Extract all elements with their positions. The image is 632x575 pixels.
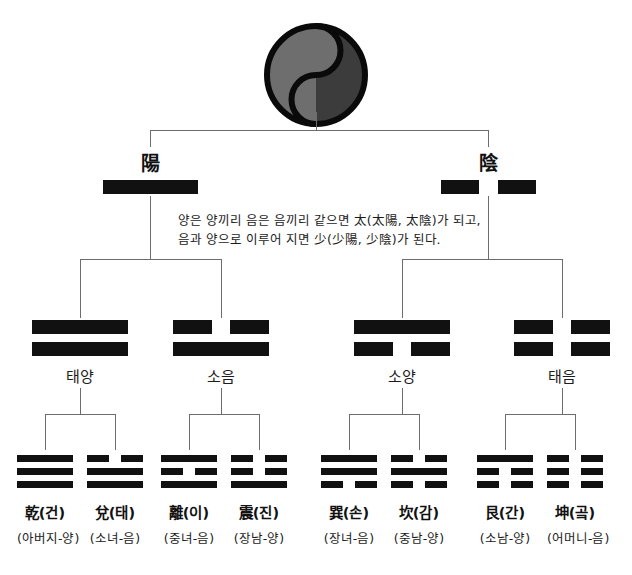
connector-taeyang-stem	[80, 388, 81, 414]
monogram-yin: 陰	[441, 148, 536, 194]
trigram-gan-name: 艮(간)	[477, 501, 533, 522]
trigram-son-lines	[321, 455, 377, 488]
trigram-tae-lines	[87, 455, 143, 488]
explanation-line-1: 양은 양끼리 음은 음끼리 같으면 太(太陽, 太陰)가 되고,	[178, 211, 481, 230]
trigram-jin: 震(진) (장남-양)	[231, 455, 287, 547]
yao-broken	[391, 455, 447, 462]
connector-i-drop	[189, 414, 190, 450]
monogram-yin-lines	[441, 180, 536, 194]
bigram-taeeum-label: 태음	[514, 365, 610, 386]
trigram-son: 巽(손) (장녀-음)	[321, 455, 377, 547]
yao-solid	[17, 468, 73, 475]
trigram-gam-lines	[391, 455, 447, 488]
monogram-yin-label: 陰	[441, 148, 536, 175]
connector-soeum-drop	[221, 259, 222, 318]
explanation-note: 양은 양끼리 음은 음끼리 같으면 太(太陽, 太陰)가 되고, 음과 양으로 …	[178, 211, 481, 249]
bigram-soyang: 소양	[354, 320, 450, 386]
connector-taeyang-drop	[80, 259, 81, 318]
monogram-yang-lines	[103, 180, 198, 194]
trigram-gon: 坤(곸) (어머니-음)	[547, 455, 603, 547]
trigram-gam: 坎(감) (중남-양)	[391, 455, 447, 547]
bigram-taeyang-label: 태양	[32, 365, 128, 386]
bigram-taeeum: 태음	[514, 320, 610, 386]
trigram-geon-sub: (아버지-양)	[17, 528, 73, 547]
yao-broken	[477, 468, 533, 475]
connector-level1-left-drop	[150, 130, 151, 147]
connector-gam-drop	[419, 414, 420, 450]
yao-broken	[231, 468, 287, 475]
bigram-taeyang: 태양	[32, 320, 128, 386]
connector-tae-drop	[115, 414, 116, 450]
yao-solid	[32, 320, 128, 334]
trigram-i-name: 離(이)	[161, 501, 217, 522]
trigram-jin-name: 震(진)	[231, 501, 287, 522]
bigram-taeeum-lines	[514, 320, 610, 356]
trigram-gam-name: 坎(감)	[391, 501, 447, 522]
trigram-geon: 乾(건) (아버지-양)	[17, 455, 73, 547]
connector-taeeum-stem	[562, 388, 563, 414]
yao-solid	[321, 455, 377, 462]
yao-solid	[17, 455, 73, 462]
trigram-gan-lines	[477, 455, 533, 488]
yao-broken	[161, 468, 217, 475]
yao-broken	[87, 455, 143, 462]
connector-level2-right-bar	[402, 259, 562, 260]
yao-solid	[103, 180, 198, 194]
trigram-gon-sub: (어머니-음)	[547, 528, 603, 547]
trigram-i-sub: (중녀-음)	[161, 528, 217, 547]
yao-broken	[354, 342, 450, 356]
bigram-soeum: 소음	[173, 320, 269, 386]
trigram-geon-name: 乾(건)	[17, 501, 73, 522]
connector-level3-bar-1	[45, 414, 115, 415]
bagua-derivation-diagram: 陽 陰 양은 양끼리 음은 음끼리 같으면 太(太陽, 太陰)가 되고, 음과 …	[0, 0, 632, 575]
trigram-gon-lines	[547, 455, 603, 488]
yao-solid	[354, 320, 450, 334]
monogram-yang-label: 陽	[103, 148, 198, 175]
trigram-gan: 艮(간) (소남-양)	[477, 455, 533, 547]
connector-yang-stem	[150, 196, 151, 259]
yao-solid	[161, 455, 217, 462]
bigram-soeum-lines	[173, 320, 269, 356]
yao-broken	[441, 180, 536, 194]
yao-broken	[231, 455, 287, 462]
connector-gon-drop	[575, 414, 576, 450]
explanation-line-2: 음과 양으로 이루어 지면 少(少陽, 少陰)가 된다.	[178, 230, 481, 249]
connector-jin-drop	[259, 414, 260, 450]
trigram-jin-lines	[231, 455, 287, 488]
connector-yin-stem	[488, 196, 489, 259]
bigram-soyang-lines	[354, 320, 450, 356]
yao-solid	[87, 468, 143, 475]
bigram-soeum-label: 소음	[173, 365, 269, 386]
connector-level3-bar-4	[505, 414, 575, 415]
trigram-gam-sub: (중남-양)	[391, 528, 447, 547]
yao-solid	[477, 455, 533, 462]
trigram-i: 離(이) (중녀-음)	[161, 455, 217, 547]
yao-broken	[547, 468, 603, 475]
yao-solid	[32, 342, 128, 356]
yao-solid	[17, 481, 73, 488]
connector-son-drop	[349, 414, 350, 450]
connector-level2-left-bar	[80, 259, 221, 260]
yao-solid	[161, 481, 217, 488]
connector-root-stem	[316, 112, 317, 130]
yao-solid	[87, 481, 143, 488]
trigram-tae-name: 兌(태)	[87, 501, 143, 522]
bigram-soyang-label: 소양	[354, 365, 450, 386]
yao-broken	[321, 481, 377, 488]
connector-gan-drop	[505, 414, 506, 450]
connector-level3-bar-3	[349, 414, 419, 415]
yao-broken	[477, 481, 533, 488]
bigram-taeyang-lines	[32, 320, 128, 356]
yao-broken	[514, 342, 610, 356]
trigram-son-name: 巽(손)	[321, 501, 377, 522]
connector-level1-bar	[150, 130, 489, 131]
trigram-gon-name: 坤(곸)	[547, 501, 603, 522]
monogram-yang: 陽	[103, 148, 198, 194]
yao-broken	[173, 320, 269, 334]
connector-soyang-stem	[402, 388, 403, 414]
trigram-i-lines	[161, 455, 217, 488]
trigram-jin-sub: (장남-양)	[231, 528, 287, 547]
trigram-tae-sub: (소녀-음)	[87, 528, 143, 547]
trigram-geon-lines	[17, 455, 73, 488]
trigram-tae: 兌(태) (소녀-음)	[87, 455, 143, 547]
